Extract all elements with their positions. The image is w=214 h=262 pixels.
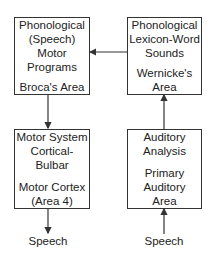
box-text: Sounds [145,46,184,60]
box-area-label: Motor Cortex [19,180,85,194]
box-text: Motor [37,46,66,60]
box-broca: Phonological (Speech) Motor Programs Bro… [14,17,90,95]
box-area-label: (Area 4) [31,194,73,208]
box-text: Programs [27,60,77,74]
box-text: Analysis [143,144,186,158]
box-area-label: Primary [145,166,185,180]
box-wernicke: Phonological Lexicon-Word Sounds Wernick… [127,17,202,95]
box-text: Cortical- [31,144,74,158]
box-text: Lexicon-Word [129,32,200,46]
box-auditory: Auditory Analysis Primary Auditory Area [127,129,202,209]
box-area-label: Wernicke's [137,66,193,80]
box-text: Phonological [132,18,198,32]
box-motor: Motor System Cortical- Bulbar Motor Cort… [14,129,90,209]
box-area-label: Area [152,80,176,94]
box-area-label: Area [152,194,176,208]
box-text: Phonological [19,18,85,32]
box-text: (Speech) [29,32,76,46]
box-area-label: Auditory [143,180,185,194]
box-text: Bulbar [35,158,68,172]
box-text: Auditory [143,130,185,144]
box-text: Motor System [17,130,88,144]
speech-input-label: Speech [134,235,194,247]
speech-output-label: Speech [18,235,78,247]
box-area-label: Broca's Area [20,80,85,94]
